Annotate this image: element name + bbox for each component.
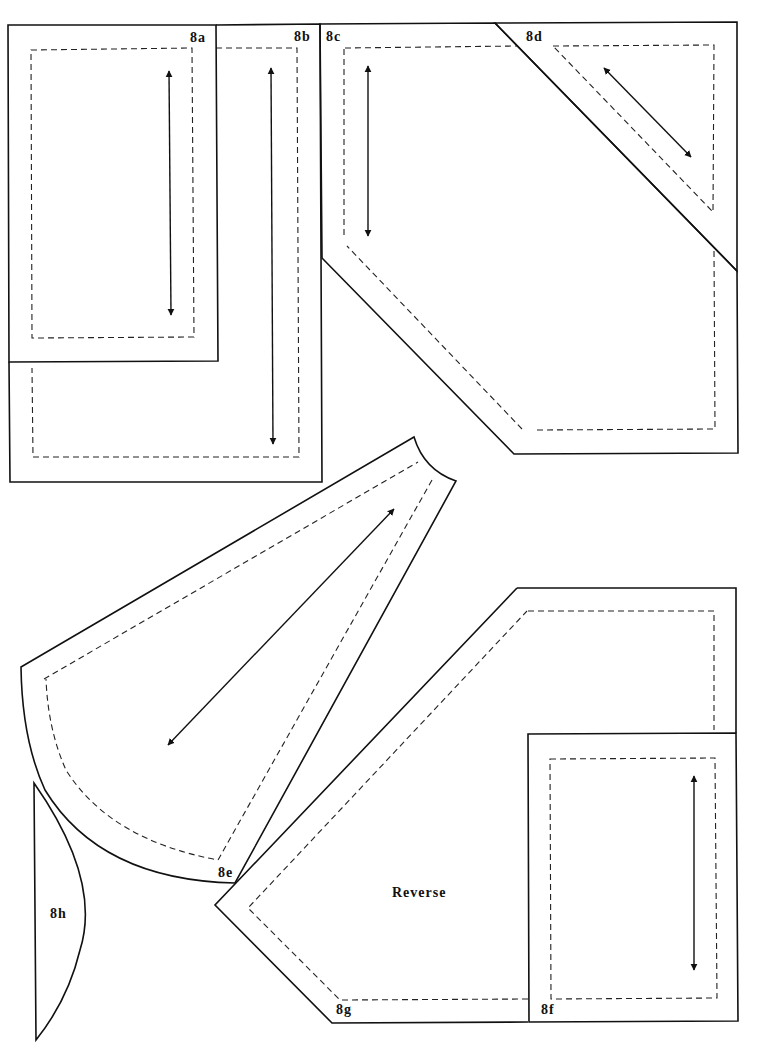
piece-8f-seam-line — [550, 758, 717, 999]
piece-label-8b: 8b — [294, 30, 311, 44]
piece-8c-cut-line — [320, 23, 738, 454]
piece-8g-seam-line — [248, 611, 714, 1000]
grainline-arrow-icon — [271, 68, 273, 444]
piece-8e — [21, 437, 456, 883]
grainline-arrow-icon — [169, 71, 171, 315]
piece-8a-cut-line — [8, 25, 218, 362]
piece-label-8h: 8h — [50, 907, 67, 921]
piece-8e-cut-line — [21, 437, 456, 883]
piece-8b — [9, 24, 322, 482]
piece-label-8e: 8e — [218, 866, 233, 880]
piece-8d — [495, 22, 737, 271]
piece-8c-seam-line — [344, 46, 715, 430]
piece-8b-seam-line — [32, 48, 299, 457]
piece-8b-cut-line — [9, 24, 322, 482]
piece-label-8a: 8a — [190, 31, 206, 45]
piece-8g — [215, 588, 736, 1023]
piece-label-8c: 8c — [326, 30, 341, 44]
piece-8c — [320, 23, 738, 454]
piece-8f — [528, 733, 738, 1022]
piece-label-8d: 8d — [526, 30, 543, 44]
piece-8d-cut-line — [495, 22, 737, 271]
piece-label-8f: 8f — [541, 1003, 555, 1017]
piece-8e-seam-line — [44, 462, 432, 860]
pattern-sheet — [0, 0, 758, 1050]
piece-8a — [8, 25, 218, 362]
piece-8d-seam-line — [553, 45, 714, 212]
piece-8g-cut-line — [215, 588, 736, 1023]
reverse-note: Reverse — [392, 886, 446, 900]
grainline-arrow-icon — [168, 509, 394, 745]
piece-8f-cut-line — [528, 733, 738, 1022]
piece-label-8g: 8g — [336, 1003, 352, 1017]
